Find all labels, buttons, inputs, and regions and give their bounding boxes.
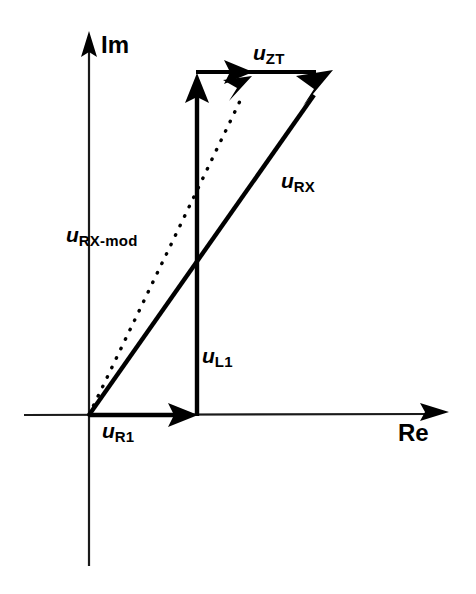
phasor-diagram-canvas [0,0,476,594]
uzt-label: uZT [253,42,285,63]
imaginary-axis-label: Im [101,33,129,57]
urx-label-main: u [281,169,294,192]
ur1-label-main: u [102,419,115,442]
urx-mod-label-sub: RX-mod [79,232,138,249]
urx-arrow-icon [296,70,333,106]
ul1-label: uL1 [202,345,233,366]
urx-line [89,95,314,415]
ul1-label-sub: L1 [215,353,233,370]
uzt-label-sub: ZT [266,50,285,67]
uzt-label-main: u [253,41,266,64]
ul1-label-main: u [202,344,215,367]
real-axis-line [24,414,432,415]
real-axis-label: Re [398,421,429,445]
urx-label: uRX [281,170,315,191]
ur1-label: uR1 [102,420,134,441]
axis-group [24,31,449,566]
urx-mod-label: uRX-mod [66,224,138,245]
ur1-label-sub: R1 [115,428,135,445]
phasor-diagram-figure: Im Re uZT uRX uRX-mod uL1 uR1 [0,0,476,594]
urx-label-sub: RX [294,178,315,195]
urx-mod-label-main: u [66,223,79,246]
